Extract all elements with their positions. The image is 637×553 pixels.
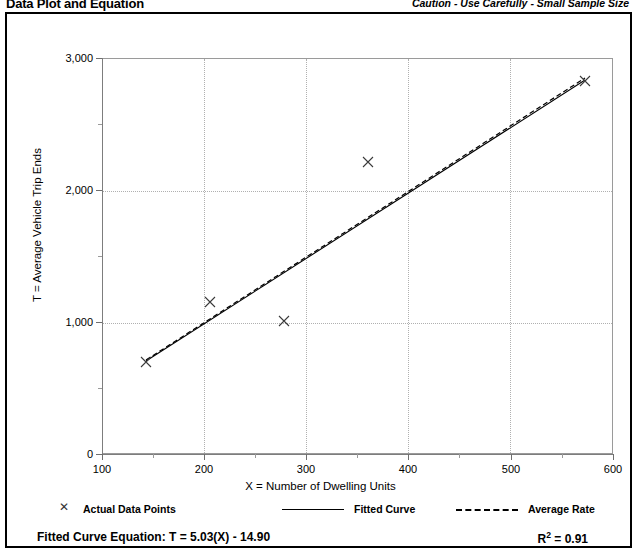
x-axis-line bbox=[102, 454, 614, 455]
x-tick-label-400: 400 bbox=[378, 463, 438, 475]
y-tick-label-0: 0 bbox=[40, 448, 93, 460]
x-tick-250 bbox=[255, 454, 256, 458]
legend-label-fitted-curve: Fitted Curve bbox=[354, 503, 415, 515]
x-tick-label-100: 100 bbox=[72, 463, 132, 475]
x-tick-100 bbox=[102, 454, 103, 460]
gridline-x-400 bbox=[408, 59, 409, 453]
x-tick-label-300: 300 bbox=[276, 463, 336, 475]
gridline-x-300 bbox=[306, 59, 307, 453]
x-tick-150 bbox=[153, 454, 154, 458]
chart-legend: ✕ Actual Data Points Fitted Curve Averag… bbox=[7, 500, 634, 524]
r-squared-exponent: 2 bbox=[546, 530, 551, 540]
r-squared-label: R bbox=[537, 532, 546, 546]
x-marker-icon: ✕ bbox=[59, 500, 69, 514]
y-tick-label-1000: 1,000 bbox=[40, 316, 93, 328]
equation-row: Fitted Curve Equation: T = 5.03(X) - 14.… bbox=[7, 530, 634, 552]
gridline-y-1000 bbox=[103, 323, 612, 324]
r-squared-value: R2 = 0.91 bbox=[537, 530, 588, 546]
fitted-curve-equation: Fitted Curve Equation: T = 5.03(X) - 14.… bbox=[37, 530, 270, 544]
gridline-x-500 bbox=[510, 59, 511, 453]
chart-frame: 3,000 2,000 1,000 0 100 200 300 400 500 … bbox=[5, 12, 632, 548]
y-tick-2000 bbox=[96, 190, 102, 191]
x-tick-label-500: 500 bbox=[481, 463, 541, 475]
legend-label-actual-data-points: Actual Data Points bbox=[83, 503, 176, 515]
x-tick-600 bbox=[613, 454, 614, 460]
y-tick-1500 bbox=[98, 256, 102, 257]
x-tick-label-200: 200 bbox=[174, 463, 234, 475]
y-tick-label-3000: 3,000 bbox=[40, 52, 93, 64]
x-axis-title: X = Number of Dwelling Units bbox=[7, 480, 634, 492]
x-tick-500 bbox=[511, 454, 512, 460]
page-title: Data Plot and Equation bbox=[6, 0, 144, 11]
r-squared-number: = 0.91 bbox=[554, 532, 588, 546]
x-tick-300 bbox=[306, 454, 307, 460]
y-tick-1000 bbox=[96, 322, 102, 323]
plot-area bbox=[102, 58, 613, 454]
y-tick-3000 bbox=[96, 58, 102, 59]
y-axis-line bbox=[102, 58, 103, 455]
dashed-line-icon bbox=[456, 509, 518, 511]
x-tick-550 bbox=[562, 454, 563, 458]
x-tick-450 bbox=[459, 454, 460, 458]
x-tick-400 bbox=[408, 454, 409, 460]
solid-line-icon bbox=[282, 509, 344, 510]
gridline-y-2000 bbox=[103, 191, 612, 192]
gridline-x-200 bbox=[204, 59, 205, 453]
caution-note: Caution - Use Carefully - Small Sample S… bbox=[412, 0, 629, 9]
y-tick-2500 bbox=[98, 124, 102, 125]
x-tick-label-600: 600 bbox=[583, 463, 637, 475]
x-tick-350 bbox=[357, 454, 358, 458]
y-tick-label-2000: 2,000 bbox=[40, 184, 93, 196]
y-axis-title: T = Average Vehicle Trip Ends bbox=[31, 45, 43, 405]
legend-label-average-rate: Average Rate bbox=[528, 503, 595, 515]
y-tick-500 bbox=[98, 388, 102, 389]
x-tick-200 bbox=[204, 454, 205, 460]
